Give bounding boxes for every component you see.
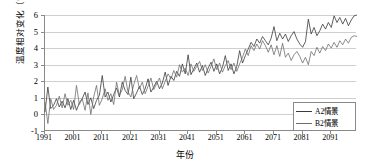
x-tick-mark [244,131,245,134]
legend-item-a2[interactable]: A2情景 [296,105,355,117]
y-tick-label: 5 [8,28,38,36]
legend-label-b2: B2情景 [315,119,338,128]
x-tick-mark [159,131,160,134]
x-tick-mark [101,131,102,134]
x-tick-mark [302,131,303,134]
legend-line-swatch-b2 [296,123,312,124]
legend-line-swatch-a2 [296,111,312,112]
y-tick-label: 2 [8,77,38,85]
temperature-change-line-chart: 温度相对变化（℃） 6543210-1 19912001201120212031… [0,0,370,167]
legend: A2情景 B2情景 [293,102,356,131]
x-tick-mark [187,131,188,134]
x-tick-mark [330,131,331,134]
x-tick-mark [44,131,45,134]
legend-label-a2: A2情景 [315,107,338,116]
y-tick-label: 6 [8,11,38,19]
y-tick-label: 3 [8,61,38,69]
x-axis-title: 年份 [0,148,370,161]
x-tick-mark [273,131,274,134]
y-tick-label: 4 [8,44,38,52]
x-tick-mark [73,131,74,134]
series-line-a2 [45,15,357,112]
y-tick-label: 1 [8,94,38,102]
legend-item-b2[interactable]: B2情景 [296,117,355,129]
x-tick-mark [216,131,217,134]
x-tick-mark [130,131,131,134]
x-tick-label: 2091 [310,133,350,142]
y-tick-label: 0 [8,110,38,118]
